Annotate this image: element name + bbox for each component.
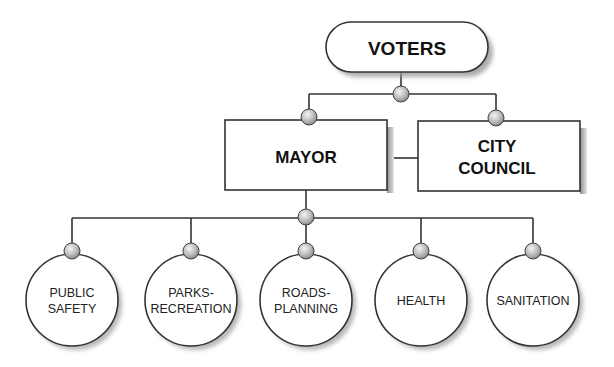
department-roads-planning: ROADS- PLANNING [260,254,356,350]
dept-label-line1: PUBLIC [49,286,94,300]
department-public-safety: PUBLIC SAFETY [26,254,122,350]
knob-icon [301,109,317,125]
city-council-node: CITY COUNCIL [418,121,587,194]
department-sanitation: SANITATION [487,254,583,350]
dept-label-line1: SANITATION [496,294,569,308]
knob-icon [183,243,199,259]
city-council-label-line1: CITY [478,137,517,156]
dept-label-line2: SAFETY [48,302,97,316]
knob-icon [413,243,429,259]
mayor-node: MAYOR [225,120,394,193]
dept-label-line2: PLANNING [274,302,338,316]
org-chart: VOTERS MAYOR CITY COUNCIL PUBLIC SAFETY … [0,0,614,367]
dept-label-line1: PARKS- [168,286,214,300]
department-health: HEALTH [375,254,471,350]
knob-icon [64,243,80,259]
dept-label-line1: HEALTH [397,294,445,308]
dept-label-line2: RECREATION [150,302,231,316]
dept-label-line1: ROADS- [282,286,331,300]
knob-icon [525,243,541,259]
department-parks-recreation: PARKS- RECREATION [145,254,241,350]
mayor-label: MAYOR [275,148,337,167]
knob-icon [488,110,504,126]
knob-icon [298,243,314,259]
city-council-label-line2: COUNCIL [458,159,535,178]
knob-icon [393,86,409,102]
voters-label: VOTERS [368,38,446,59]
knob-icon [298,209,314,225]
voters-node: VOTERS [326,22,493,77]
